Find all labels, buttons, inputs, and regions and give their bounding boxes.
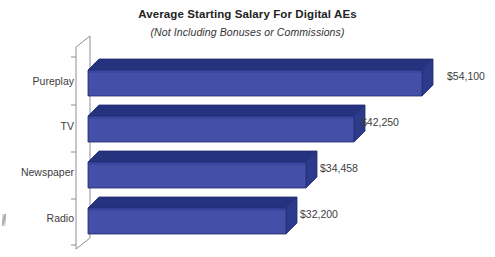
bar-pureplay[interactable] — [88, 59, 444, 97]
bar-newspaper[interactable] — [88, 151, 328, 189]
value-label-pureplay: $54,100 — [447, 70, 485, 82]
value-label-tv: $42,250 — [361, 116, 399, 128]
plot-area: Pureplay TV Newspaper Radio $54,100 — [0, 0, 495, 257]
scan-artifact — [2, 214, 6, 226]
category-label-newspaper: Newspaper — [21, 166, 74, 178]
category-label-tv: TV — [61, 120, 74, 132]
value-label-radio: $32,200 — [300, 208, 338, 220]
bar-tv[interactable] — [88, 105, 376, 143]
value-label-newspaper: $34,458 — [320, 162, 358, 174]
bar-radio[interactable] — [88, 197, 308, 235]
category-label-pureplay: Pureplay — [33, 75, 74, 87]
category-label-radio: Radio — [47, 212, 74, 224]
